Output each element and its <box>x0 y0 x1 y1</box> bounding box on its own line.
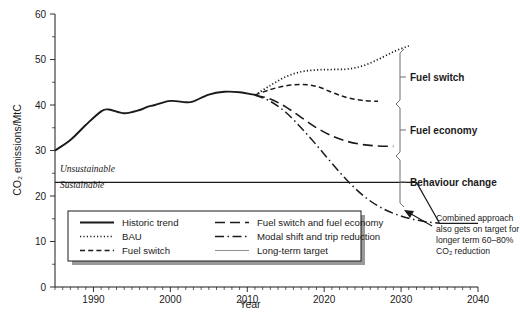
legend-label: Fuel switch <box>122 245 170 256</box>
y-tick-label: 30 <box>35 145 47 156</box>
legend-label: Historic trend <box>122 217 179 228</box>
chart-figure: 0102030405060 199020002010202020302040 C… <box>0 0 520 315</box>
y-tick-label: 60 <box>35 9 47 20</box>
x-tick-label: 2030 <box>390 294 413 305</box>
x-axis-title: Year <box>239 298 261 310</box>
series-historic-trend <box>55 92 255 151</box>
x-axis-ticks <box>55 287 478 292</box>
legend-label: Fuel switch and fuel economy <box>257 217 384 228</box>
band-label-unsustainable: Unsustainable <box>60 164 115 174</box>
bracket-label-fuel-economy: Fuel economy <box>410 125 478 136</box>
callout-line-4: CO₂ reduction <box>436 246 490 256</box>
legend: Historic trendBAUFuel switchFuel switch … <box>68 211 384 265</box>
callout-line-3: longer term 60–80% <box>436 235 514 245</box>
bracket-label-fuel-switch: Fuel switch <box>410 72 464 83</box>
band-label-sustainable: Sustainable <box>60 180 104 190</box>
series-fuel-switch <box>255 85 378 102</box>
callout-line-2: also gets on target for <box>436 224 519 234</box>
bracket-group <box>396 49 406 207</box>
legend-label: BAU <box>122 231 142 242</box>
series-bau <box>255 46 409 95</box>
x-tick-label: 2000 <box>159 294 182 305</box>
legend-label: Modal shift and trip reduction <box>257 231 380 242</box>
series-fuel-switch-and-fuel-economy <box>255 95 393 146</box>
x-axis-tick-labels: 199020002010202020302040 <box>82 294 489 305</box>
y-tick-label: 40 <box>35 100 47 111</box>
x-tick-label: 2040 <box>467 294 490 305</box>
y-axis-tick-labels: 0102030405060 <box>35 9 47 293</box>
y-axis-ticks <box>50 14 55 287</box>
callout-line-1: Combined approach <box>436 213 514 223</box>
y-tick-label: 50 <box>35 54 47 65</box>
y-tick-label: 10 <box>35 236 47 247</box>
y-axis-title: CO₂ emissions/MtC <box>11 104 23 196</box>
bracket-label-behaviour-change: Behaviour change <box>410 177 497 188</box>
y-tick-label: 20 <box>35 191 47 202</box>
emissions-scenarios-chart: 0102030405060 199020002010202020302040 C… <box>0 0 520 315</box>
x-tick-label: 1990 <box>82 294 105 305</box>
x-tick-label: 2020 <box>313 294 336 305</box>
legend-label: Long-term target <box>257 245 328 256</box>
series-modal-shift-and-trip-reduction <box>255 95 440 223</box>
y-tick-label: 0 <box>40 282 46 293</box>
contribution-bracket <box>396 49 404 207</box>
